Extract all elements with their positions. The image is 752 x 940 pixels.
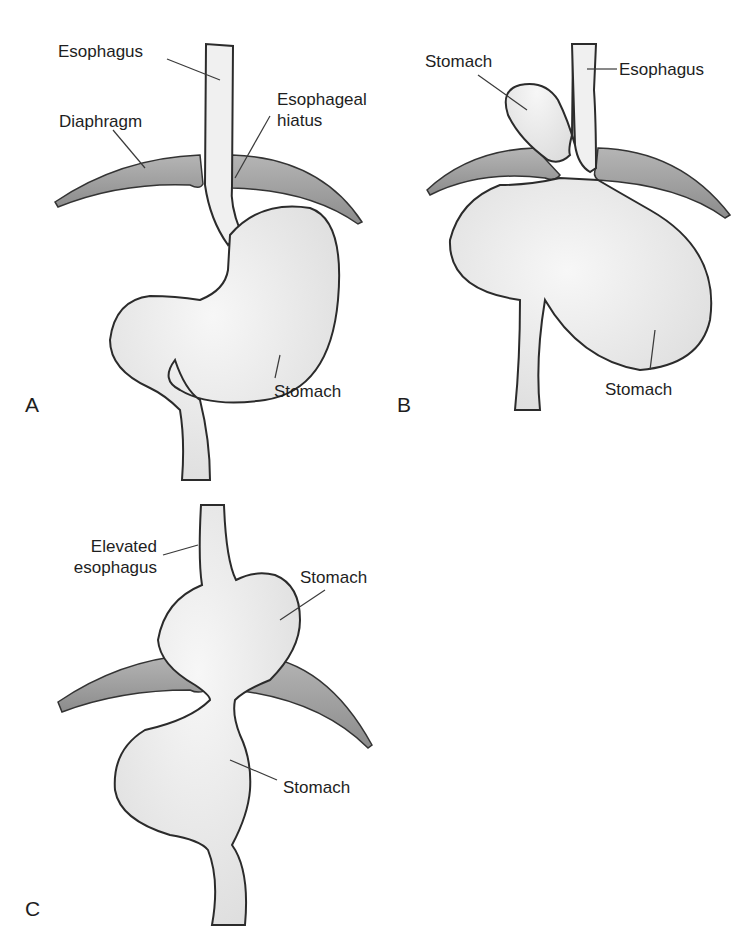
esophagus-a (205, 44, 240, 245)
label-stomach-a: Stomach (274, 382, 341, 402)
hiatal-hernia-illustration (0, 0, 752, 940)
label-esophageal-hiatus-line1: Esophageal (277, 90, 367, 110)
esophagus-b (572, 44, 596, 172)
stomach-a (110, 207, 339, 480)
label-esophagus-b: Esophagus (619, 60, 704, 80)
label-esophageal-hiatus-line2: hiatus (277, 111, 322, 131)
label-stomach-c-lower: Stomach (283, 778, 350, 798)
label-esophagus-a: Esophagus (58, 42, 143, 62)
panel-letter-a: A (25, 393, 39, 417)
label-diaphragm: Diaphragm (59, 112, 142, 132)
stomach-b (450, 178, 711, 410)
panel-letter-c: C (25, 897, 40, 921)
herniated-stomach-b (506, 45, 575, 162)
label-elevated-esophagus-line2: esophagus (57, 558, 157, 578)
label-stomach-c-upper: Stomach (300, 568, 367, 588)
panel-letter-b: B (397, 393, 411, 417)
label-stomach-b-upper: Stomach (425, 52, 492, 72)
label-elevated-esophagus-line1: Elevated (57, 537, 157, 557)
label-stomach-b-lower: Stomach (605, 380, 672, 400)
diaphragm-left (55, 155, 203, 207)
panel-b-drawing (427, 44, 730, 410)
